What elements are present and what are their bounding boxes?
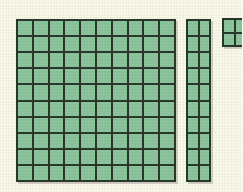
unit-cell [97, 102, 111, 116]
unit-cell [97, 37, 111, 51]
unit-cell [113, 118, 127, 132]
unit-cell [113, 85, 127, 99]
unit-cell [236, 20, 243, 32]
unit-cell [81, 102, 95, 116]
ten-rod [186, 19, 211, 182]
base-ten-blocks-illustration [0, 0, 242, 192]
unit-cell [81, 85, 95, 99]
unit-cell [144, 166, 158, 180]
unit-cell [65, 69, 79, 83]
unit-cell [200, 53, 210, 67]
unit-cell [129, 102, 143, 116]
unit-cell [188, 85, 198, 99]
unit-cell [50, 85, 64, 99]
unit-cell [129, 69, 143, 83]
unit-cell [81, 53, 95, 67]
unit-cell [144, 102, 158, 116]
unit-cell [236, 34, 243, 46]
unit-cell [81, 166, 95, 180]
unit-cell [144, 69, 158, 83]
unit-cell [34, 85, 48, 99]
unit-cell [200, 85, 210, 99]
unit-cell [188, 21, 198, 35]
unit-cell [113, 166, 127, 180]
unit-cell [34, 102, 48, 116]
unit-cell [34, 118, 48, 132]
unit-cell [160, 166, 174, 180]
unit-cell [224, 20, 234, 32]
unit-cell [65, 150, 79, 164]
unit-cell [50, 21, 64, 35]
unit-cell [81, 37, 95, 51]
unit-cell [50, 53, 64, 67]
unit-cell [50, 118, 64, 132]
unit-cell [97, 69, 111, 83]
unit-cell [160, 21, 174, 35]
unit-cell [65, 134, 79, 148]
unit-cell [144, 37, 158, 51]
unit-cell [34, 21, 48, 35]
unit-cell [160, 37, 174, 51]
unit-cell [200, 37, 210, 51]
unit-cell [129, 21, 143, 35]
unit-cell [144, 118, 158, 132]
unit-cell [81, 118, 95, 132]
unit-cell [18, 118, 32, 132]
unit-cell [18, 69, 32, 83]
unit-cell [34, 37, 48, 51]
unit-cell [144, 150, 158, 164]
unit-cell [129, 134, 143, 148]
unit-cell [18, 21, 32, 35]
unit-cell [129, 166, 143, 180]
unit-cell [50, 134, 64, 148]
unit-cell [188, 118, 198, 132]
unit-cell [65, 85, 79, 99]
unit-cell [188, 166, 198, 180]
unit-cell [200, 102, 210, 116]
unit-cell [113, 37, 127, 51]
unit-cell [160, 134, 174, 148]
unit-cell [129, 53, 143, 67]
unit-cell [50, 102, 64, 116]
unit-cell [188, 69, 198, 83]
unit-cell [65, 118, 79, 132]
unit-cell [97, 21, 111, 35]
unit-cell [97, 85, 111, 99]
unit-cell [113, 102, 127, 116]
unit-cell [113, 69, 127, 83]
unit-cell [65, 102, 79, 116]
hundred-flat [16, 19, 176, 182]
unit-cell [65, 37, 79, 51]
unit-cell [188, 53, 198, 67]
unit-cell [160, 85, 174, 99]
unit-cell [113, 53, 127, 67]
unit-cell [97, 53, 111, 67]
unit-cell [188, 102, 198, 116]
unit-cell [200, 118, 210, 132]
unit-cell [144, 85, 158, 99]
unit-cell [113, 150, 127, 164]
unit-cell [160, 69, 174, 83]
unit-cell [144, 21, 158, 35]
unit-cell [97, 150, 111, 164]
unit-cell [160, 53, 174, 67]
unit-cell [18, 150, 32, 164]
unit-cell [81, 134, 95, 148]
unit-cell [160, 150, 174, 164]
unit-cell [65, 53, 79, 67]
unit-cell [34, 150, 48, 164]
unit-cell [113, 21, 127, 35]
unit-cell [81, 150, 95, 164]
unit-cell [160, 102, 174, 116]
unit-cell [18, 134, 32, 148]
unit-cell [188, 134, 198, 148]
unit-cell [97, 166, 111, 180]
unit-cell [188, 150, 198, 164]
unit-cell [81, 69, 95, 83]
unit-cell [188, 37, 198, 51]
unit-cell [50, 69, 64, 83]
unit-cell [200, 166, 210, 180]
unit-cell [18, 85, 32, 99]
unit-cell [224, 34, 234, 46]
unit-cell [113, 134, 127, 148]
